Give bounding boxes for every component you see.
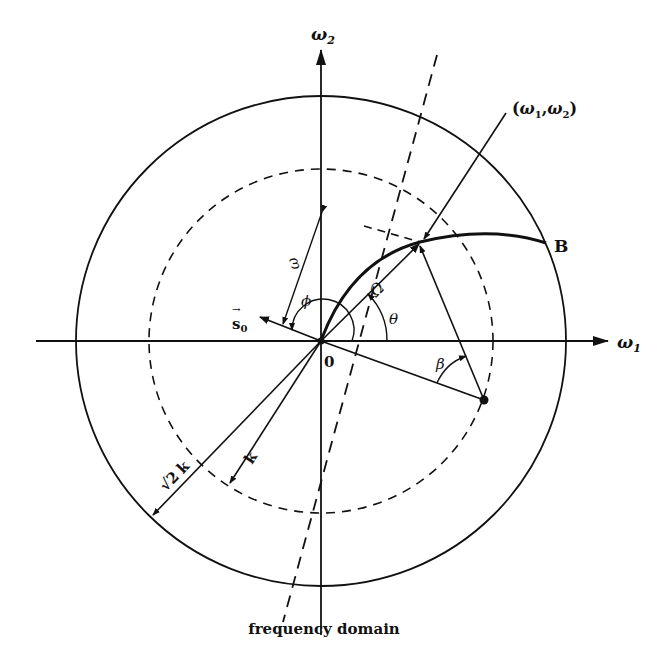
frequency-domain-diagram: ω2 ω1 (ω1,ω2) B 0 s0 → ϕ θ β ω Ω k √2k f… <box>0 0 670 657</box>
sqrt2k-radius <box>153 341 321 515</box>
omega1-axis-label: ω1 <box>617 332 641 355</box>
k-radius <box>230 341 321 483</box>
origin-dot <box>318 338 325 345</box>
curve-to-B <box>322 234 546 338</box>
caption: frequency domain <box>248 620 400 638</box>
omega-length-label: ω <box>283 255 304 272</box>
dashed-direction-line <box>283 55 437 622</box>
s0-label: s0 <box>232 315 247 334</box>
origin-label: 0 <box>324 353 334 371</box>
theta-label: θ <box>389 310 398 328</box>
theta-arc <box>368 294 387 341</box>
dot-to-point-line <box>420 246 484 400</box>
dashed-perpendicular <box>364 226 420 242</box>
s0-vector <box>260 317 321 341</box>
point-label: (ω1,ω2) <box>512 99 577 120</box>
point-pointer-line <box>424 113 506 239</box>
Omega-label: Ω <box>365 278 389 302</box>
center-dot <box>480 396 489 405</box>
dashed-perp-seg <box>377 183 420 242</box>
s0-arrow-accent: → <box>232 304 241 315</box>
phi-label: ϕ <box>301 292 311 310</box>
curve-end-label-B: B <box>554 236 568 256</box>
sqrt2k-label: √2k <box>156 457 193 495</box>
beta-label: β <box>435 355 445 373</box>
dashed-perpendicular-top <box>380 199 420 242</box>
omega2-axis-label: ω2 <box>311 24 335 47</box>
